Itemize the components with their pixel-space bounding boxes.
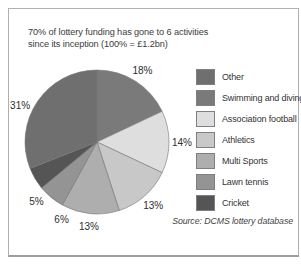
legend-label: Other — [222, 72, 244, 82]
legend-item-other: Other — [196, 69, 301, 84]
pie-value-label: 13% — [79, 221, 99, 232]
source-note: Source: DCMS lottery database — [172, 216, 293, 226]
chart-frame: 70% of lottery funding has gone to 6 act… — [8, 8, 299, 257]
legend-swatch — [196, 174, 215, 190]
pie-value-label: 6% — [54, 214, 69, 225]
legend: OtherSwimming and divingAssociation foot… — [196, 69, 301, 216]
legend-label: Multi Sports — [222, 156, 268, 166]
legend-swatch — [196, 69, 215, 85]
legend-label: Athletics — [222, 135, 255, 145]
legend-item-multi-sports: Multi Sports — [196, 153, 301, 168]
pie-value-label: 14% — [172, 137, 192, 148]
legend-swatch — [196, 111, 215, 127]
legend-label: Swimming and diving — [222, 93, 301, 103]
chart-title: 70% of lottery funding has gone to 6 act… — [28, 26, 208, 50]
chart-title-line-1: 70% of lottery funding has gone to 6 act… — [28, 27, 208, 37]
legend-label: Cricket — [222, 198, 249, 208]
legend-label: Association football — [222, 114, 297, 124]
legend-label: Lawn tennis — [222, 177, 268, 187]
pie-value-label: 18% — [132, 65, 152, 76]
chart-title-line-2: since its inception (100% = £1.2bn) — [28, 39, 168, 49]
legend-item-cricket: Cricket — [196, 195, 301, 210]
legend-item-swimming-and-diving: Swimming and diving — [196, 90, 301, 105]
legend-swatch — [196, 90, 215, 106]
legend-item-lawn-tennis: Lawn tennis — [196, 174, 301, 189]
pie-value-label: 31% — [10, 100, 30, 111]
legend-item-association-football: Association football — [196, 111, 301, 126]
legend-swatch — [196, 153, 215, 169]
legend-swatch — [196, 195, 215, 211]
pie-value-label: 13% — [143, 200, 163, 211]
legend-item-athletics: Athletics — [196, 132, 301, 147]
legend-swatch — [196, 132, 215, 148]
pie-chart: 18%14%13%13%6%5%31% — [9, 59, 199, 239]
pie-value-label: 5% — [29, 196, 44, 207]
